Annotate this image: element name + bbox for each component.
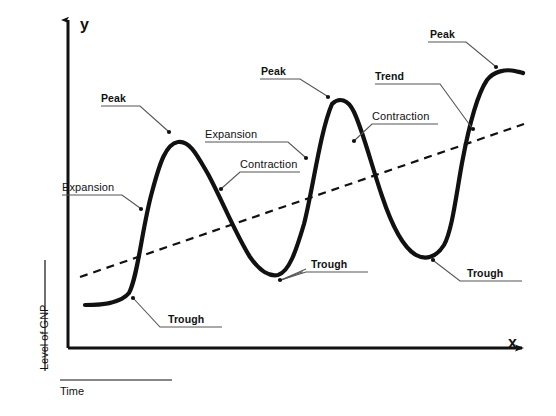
business-cycle-diagram: [0, 0, 556, 416]
label-trough-1: Trough: [168, 314, 204, 325]
leader-contraction-1: [222, 172, 300, 188]
label-trough-2: Trough: [311, 259, 347, 270]
label-trough-3: Trough: [467, 268, 503, 279]
leader-peak-1: [101, 106, 168, 131]
dot-trend: [471, 127, 475, 131]
dot-peak-1: [167, 130, 171, 134]
dot-peak-3: [494, 65, 498, 69]
leader-expansion-1: [62, 195, 140, 208]
leader-peak-3: [428, 42, 495, 66]
label-contraction-1: Contraction: [240, 159, 297, 170]
axis-lines: [68, 20, 522, 348]
dot-trough-1: [131, 296, 135, 300]
label-trend: Trend: [375, 71, 404, 82]
dot-contraction-2: [352, 139, 356, 143]
x-axis-caption: Time: [60, 385, 84, 397]
dot-contraction-1: [219, 187, 223, 191]
leader-trough-2c: [281, 272, 368, 280]
dot-expansion-1: [139, 207, 143, 211]
label-expansion-1: Expansion: [62, 182, 114, 193]
dot-peak-2: [326, 95, 330, 99]
leader-contraction-2: [355, 124, 438, 140]
y-axis-caption: Level of GNP: [38, 305, 50, 370]
y-axis-letter: y: [80, 16, 89, 34]
label-peak-1: Peak: [101, 93, 126, 104]
x-axis-letter: x: [508, 334, 517, 352]
label-expansion-2: Expansion: [205, 129, 257, 140]
dot-trough-3: [431, 258, 435, 262]
label-peak-3: Peak: [430, 29, 455, 40]
figure-canvas: y x Level of GNP Time Expansion Peak Tro…: [0, 0, 556, 416]
label-peak-2: Peak: [261, 66, 286, 77]
label-contraction-2: Contraction: [372, 111, 429, 122]
dot-expansion-2: [304, 156, 308, 160]
leader-peak-2: [260, 79, 327, 96]
dot-trough-2: [278, 278, 282, 282]
leader-expansion-2: [205, 142, 305, 157]
